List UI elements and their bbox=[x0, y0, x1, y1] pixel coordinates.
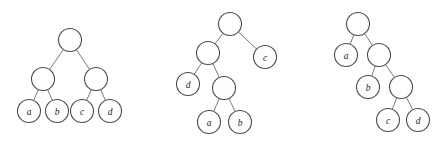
node-circle bbox=[368, 44, 391, 67]
tree-node-c[interactable]: c bbox=[254, 46, 277, 69]
tree-edge bbox=[215, 33, 223, 44]
tree-node-d[interactable]: d bbox=[407, 109, 430, 132]
node-label: a bbox=[27, 107, 32, 117]
tree-edge bbox=[386, 64, 395, 77]
node-circle bbox=[219, 13, 242, 36]
tree-edge bbox=[364, 34, 372, 46]
tree-node-unlabeled[interactable] bbox=[59, 29, 82, 52]
tree-node-unlabeled[interactable] bbox=[390, 76, 413, 99]
tree-edge bbox=[213, 63, 219, 77]
tree-edge bbox=[350, 35, 354, 45]
node-circle bbox=[213, 77, 236, 100]
tree-edge bbox=[101, 90, 106, 101]
right-deep-tree-nodes: abcd bbox=[335, 13, 430, 132]
tree-node-unlabeled[interactable] bbox=[197, 42, 220, 65]
left-deep-tree-nodes: cdab bbox=[177, 13, 277, 134]
tree-node-unlabeled[interactable] bbox=[32, 68, 55, 91]
tree-node-unlabeled[interactable] bbox=[347, 13, 370, 36]
tree-edge bbox=[372, 66, 376, 76]
node-label: a bbox=[344, 51, 349, 61]
node-circle bbox=[197, 42, 220, 65]
tree-edge bbox=[76, 50, 89, 70]
tree-node-unlabeled[interactable] bbox=[219, 13, 242, 36]
node-label: b bbox=[55, 107, 60, 117]
tree-node-unlabeled[interactable] bbox=[368, 44, 391, 67]
tree-edge bbox=[406, 97, 412, 110]
tree-edge bbox=[214, 99, 220, 112]
node-circle bbox=[59, 29, 82, 52]
tree-edge bbox=[34, 90, 39, 101]
binary-tree-figure: abcdcdababcd bbox=[0, 0, 437, 145]
tree-node-a[interactable]: a bbox=[18, 100, 41, 123]
tree-node-unlabeled[interactable] bbox=[213, 77, 236, 100]
nodes-layer: abcdcdababcd bbox=[18, 13, 430, 134]
tree-edge bbox=[392, 98, 397, 110]
node-label: a bbox=[207, 118, 212, 128]
tree-node-b[interactable]: b bbox=[229, 111, 252, 134]
tree-node-b[interactable]: b bbox=[46, 100, 69, 123]
tree-edge bbox=[238, 32, 256, 49]
trees-canvas: abcdcdababcd bbox=[0, 0, 437, 145]
node-label: b bbox=[366, 83, 371, 93]
tree-node-b[interactable]: b bbox=[357, 76, 380, 99]
tree-edge bbox=[229, 98, 235, 111]
tree-node-a[interactable]: a bbox=[198, 111, 221, 134]
balanced-tree-nodes: abcd bbox=[18, 29, 122, 123]
tree-node-d[interactable]: d bbox=[99, 100, 122, 123]
node-label: d bbox=[108, 107, 113, 117]
tree-node-c[interactable]: c bbox=[377, 109, 400, 132]
tree-node-d[interactable]: d bbox=[177, 73, 200, 96]
tree-edge bbox=[194, 63, 202, 75]
node-circle bbox=[390, 76, 413, 99]
node-circle bbox=[32, 68, 55, 91]
node-label: d bbox=[186, 80, 191, 90]
tree-node-a[interactable]: a bbox=[335, 44, 358, 67]
tree-node-c[interactable]: c bbox=[71, 100, 94, 123]
tree-edge bbox=[87, 90, 92, 101]
tree-edge bbox=[50, 49, 64, 69]
tree-node-unlabeled[interactable] bbox=[85, 68, 108, 91]
node-label: d bbox=[416, 116, 421, 126]
tree-edge bbox=[48, 90, 53, 101]
node-circle bbox=[347, 13, 370, 36]
node-label: b bbox=[238, 118, 243, 128]
node-circle bbox=[85, 68, 108, 91]
